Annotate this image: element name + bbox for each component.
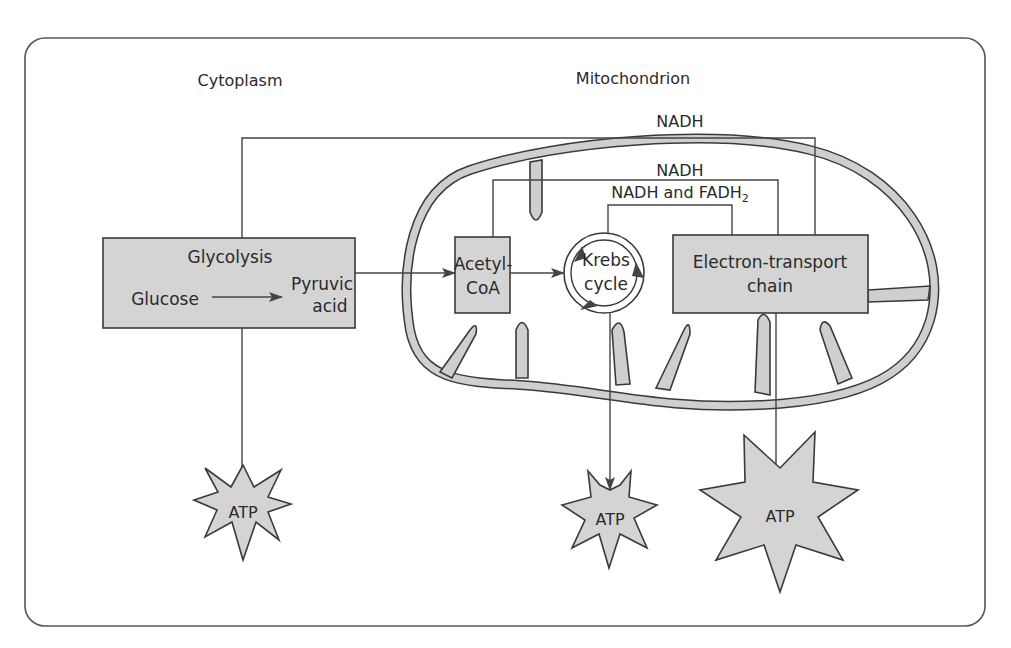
pyruvic-acid-line1: Pyruvic [291, 274, 353, 294]
cytoplasm-label: Cytoplasm [197, 71, 282, 90]
nadh-fadh2-label: NADH and FADH2 [611, 183, 749, 205]
crista [755, 314, 770, 395]
diagram-frame [25, 38, 985, 626]
atp-krebs-label: ATP [595, 510, 624, 529]
crista [868, 286, 930, 302]
atp-glycolysis: ATP [194, 465, 291, 560]
atp-glycolysis-label: ATP [228, 503, 257, 522]
krebs-line2: cycle [584, 274, 628, 294]
krebs-line1: Krebs [582, 250, 630, 270]
etc-line2: chain [747, 276, 793, 296]
etc-box: Electron-transport chain [673, 235, 868, 313]
acetyl-coa-box: Acetyl- CoA [454, 237, 513, 313]
crista [820, 322, 852, 384]
etc-line1: Electron-transport [693, 252, 848, 272]
crista [440, 326, 476, 378]
acetyl-coa-line2: CoA [466, 278, 500, 298]
glycolysis-box: Glycolysis Glucose Pyruvic acid [103, 238, 355, 328]
crista [516, 323, 528, 379]
respiration-diagram: Cytoplasm Mitochondrion NADH NADH NADH a… [0, 0, 1011, 648]
atp-etc: ATP [700, 432, 858, 592]
nadh-glycolysis-label: NADH [656, 112, 703, 131]
acetyl-coa-line1: Acetyl- [454, 254, 513, 274]
crista [656, 325, 690, 390]
krebs-cycle: Krebs cycle [564, 233, 644, 313]
crista [530, 160, 542, 220]
glycolysis-title: Glycolysis [188, 247, 273, 267]
glucose-label: Glucose [131, 289, 199, 309]
nadh-acetyl-label: NADH [656, 161, 703, 180]
atp-etc-label: ATP [765, 507, 794, 526]
pyruvic-acid-line2: acid [312, 296, 347, 316]
mitochondrion-label: Mitochondrion [576, 69, 690, 88]
crista [612, 323, 630, 385]
